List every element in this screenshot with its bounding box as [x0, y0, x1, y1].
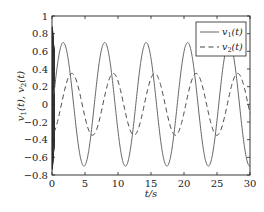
x-tick-label: 10: [112, 178, 125, 189]
svg-text:v1(t), v2(t): v1(t), v2(t): [15, 71, 28, 121]
cropped-caption: [0, 206, 264, 212]
series-v1-line: [54, 43, 250, 167]
y-tick-label: −0.8: [24, 170, 48, 181]
x-tick-label: 5: [82, 178, 88, 189]
y-tick-label: 1: [42, 11, 48, 22]
x-tick-label: 30: [244, 178, 257, 189]
y-tick-label: −0.4: [24, 134, 48, 145]
y-tick-label: 0: [42, 99, 48, 110]
y-tick-label: −0.6: [24, 152, 48, 163]
y-tick-label: 0.8: [32, 28, 48, 39]
x-tick-label: 25: [211, 178, 224, 189]
transient-band: [52, 27, 54, 171]
y-tick-label: 0.2: [32, 81, 48, 92]
y-tick-label: 0.6: [32, 46, 48, 57]
x-axis-label: t/s: [145, 188, 158, 199]
legend: v1(t) v2(t): [196, 22, 246, 56]
y-axis-label: v1(t), v2(t): [15, 71, 28, 121]
x-tick-label: 20: [178, 178, 191, 189]
y-tick-label: −0.2: [24, 117, 48, 128]
line-chart: 051015202530 −0.8−0.6−0.4−0.200.20.40.60…: [0, 0, 264, 212]
y-tick-labels: −0.8−0.6−0.4−0.200.20.40.60.81: [24, 11, 48, 181]
y-tick-label: 0.4: [32, 64, 48, 75]
x-tick-label: 0: [49, 178, 55, 189]
